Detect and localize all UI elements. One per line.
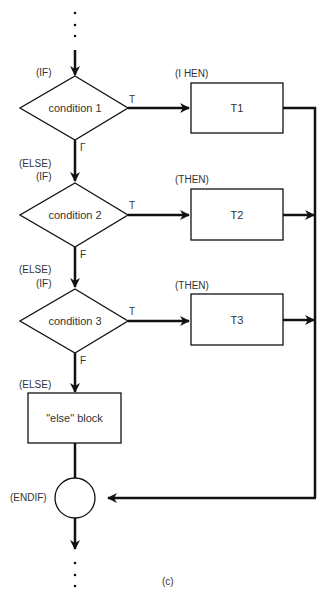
true-label-3: T [129, 306, 135, 318]
condition-1-label: condition 1 [35, 101, 115, 115]
then-keyword-3: (THEN) [175, 280, 209, 292]
then-block-3-label: T3 [191, 313, 283, 327]
figure-caption: (c) [162, 576, 174, 588]
then-block-2-label: T2 [191, 208, 283, 222]
endif-keyword: (ENDIF) [10, 492, 47, 504]
true-label-2: T [129, 200, 135, 212]
then-keyword-2: (THEN) [175, 174, 209, 186]
if-keyword-3: (IF) [36, 278, 52, 290]
false-label-2: F [80, 249, 86, 261]
then-keyword-1: (I HEN) [175, 68, 208, 80]
then-exit-line-1 [283, 108, 315, 498]
true-label-1: T [129, 94, 135, 106]
if-keyword-2: (IF) [36, 171, 52, 183]
else-keyword-1: (ELSE) [19, 158, 51, 170]
top-continuation-dots [74, 12, 77, 38]
else-keyword-final: (ELSE) [19, 379, 51, 391]
else-block-label: "else" block [28, 411, 121, 425]
endif-junction [55, 478, 95, 518]
else-keyword-2: (ELSE) [19, 264, 51, 276]
false-label-1: Γ [80, 142, 86, 154]
condition-2-label: condition 2 [35, 208, 115, 222]
bottom-continuation-dots [74, 562, 77, 588]
flowchart-canvas [0, 0, 330, 604]
then-block-1-label: T1 [191, 101, 283, 115]
condition-3-label: condition 3 [35, 314, 115, 328]
if-keyword-1: (IF) [36, 67, 52, 79]
false-label-3: F [80, 355, 86, 367]
